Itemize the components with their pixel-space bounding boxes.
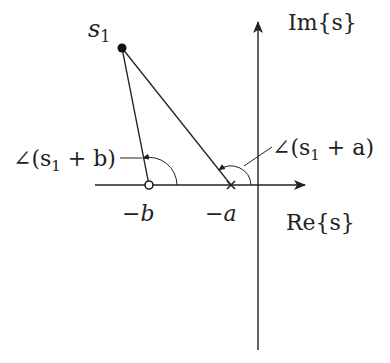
re-axis-label: Re{s} bbox=[286, 210, 355, 235]
angle-b-label: ∠(s1 + b) bbox=[13, 146, 116, 175]
pole-label: −a bbox=[205, 201, 237, 226]
vector-to-pole bbox=[122, 48, 231, 185]
diagram-svg: s1 Im{s} Re{s} −b −a ∠(s1 + b) ∠(s1 + a) bbox=[0, 0, 390, 363]
vector-to-zero bbox=[122, 48, 149, 185]
im-axis-label: Im{s} bbox=[288, 10, 357, 35]
point-s1-label: s1 bbox=[88, 15, 111, 46]
zero-marker-icon bbox=[145, 181, 153, 189]
zero-label: −b bbox=[122, 201, 155, 226]
s-plane-diagram: s1 Im{s} Re{s} −b −a ∠(s1 + b) ∠(s1 + a) bbox=[0, 0, 390, 363]
angle-a-label: ∠(s1 + a) bbox=[272, 135, 374, 164]
point-s1 bbox=[118, 44, 127, 53]
